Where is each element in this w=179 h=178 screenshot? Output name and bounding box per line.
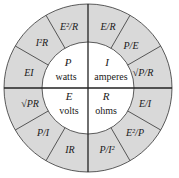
formula-cell: P/I bbox=[36, 127, 50, 138]
quadrant-symbol: P bbox=[64, 56, 72, 68]
formula-cell: √PR bbox=[21, 98, 39, 109]
quadrant-unit: ohms bbox=[95, 105, 117, 116]
quadrant-symbol: E bbox=[65, 90, 73, 102]
quadrant-symbol: R bbox=[102, 90, 110, 102]
formula-cell: E²/P bbox=[125, 127, 144, 138]
quadrant-unit: volts bbox=[59, 105, 79, 116]
formula-cell: EI bbox=[23, 67, 34, 78]
formula-cell: E/R bbox=[100, 21, 116, 32]
quadrant-unit: amperes bbox=[94, 71, 127, 82]
formula-wheel: P watts EI I²R E²/R I amperes E/R P/E √P… bbox=[0, 0, 179, 178]
formula-cell: √P/R bbox=[133, 67, 153, 78]
formula-cell: E/I bbox=[138, 98, 152, 109]
formula-cell: P/E bbox=[123, 40, 139, 51]
formula-cell: P/I² bbox=[98, 144, 115, 155]
formula-cell: E²/R bbox=[59, 21, 78, 32]
quadrant-unit: watts bbox=[55, 71, 76, 82]
formula-cell: IR bbox=[64, 144, 74, 155]
formula-cell: I²R bbox=[35, 37, 48, 48]
